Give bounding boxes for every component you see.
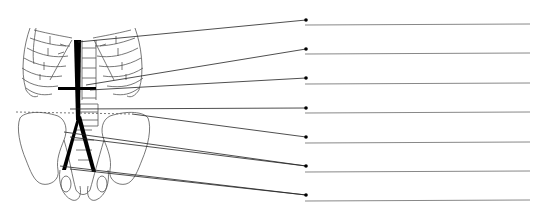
answer-blank-3[interactable] [308,67,528,83]
answer-blank-6[interactable] [308,155,528,171]
pelvis [18,112,149,200]
answer-blank-2[interactable] [308,37,528,53]
rib-cage [22,28,143,97]
aorta-vessels [58,40,96,172]
answer-blank-5[interactable] [308,126,528,142]
answer-blank-4[interactable] [308,96,528,112]
answer-blank-1[interactable] [308,8,528,24]
answer-blank-7[interactable] [308,184,528,200]
dashed-plane-line [16,112,132,114]
